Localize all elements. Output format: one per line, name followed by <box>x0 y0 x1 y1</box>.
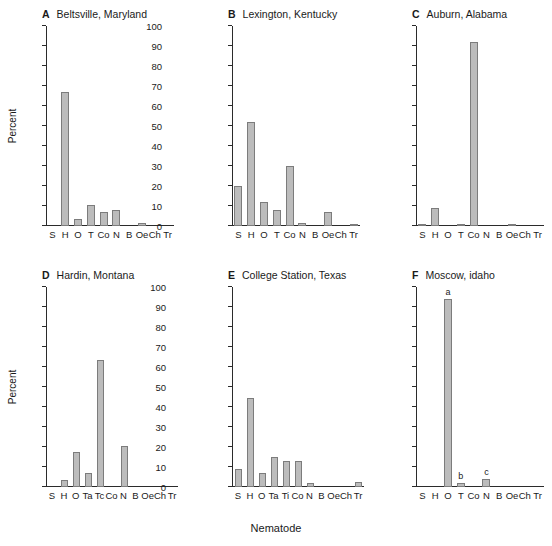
panel-c-letter: C <box>412 8 420 20</box>
x-axis-tick-label: S <box>232 229 245 240</box>
x-axis-tick-label: N <box>480 490 493 501</box>
panel-b-bars <box>232 26 360 226</box>
x-axis-tick-label: Tr <box>161 229 174 240</box>
bar-slot <box>493 26 506 226</box>
panel-c-heading: CAuburn, Alabama <box>412 8 507 20</box>
bar <box>418 224 426 226</box>
x-axis-tick-label: T <box>454 490 467 501</box>
bar-slot <box>232 26 245 226</box>
bar <box>355 482 362 487</box>
bar-slot <box>493 287 506 487</box>
bar-slot <box>283 26 296 226</box>
panel-b: BLexington, Kentucky SHOTCoNBOeChTr <box>186 0 370 261</box>
bar-slot <box>46 287 58 487</box>
x-axis-tick-label: S <box>46 229 59 240</box>
x-axis-tick-label: Co <box>105 490 117 501</box>
x-axis-tick-label: H <box>59 229 72 240</box>
x-axis-tick-label: Co <box>467 490 480 501</box>
x-axis-tick-label: Oe <box>506 229 519 240</box>
bar-slot <box>161 26 174 226</box>
bar-slot <box>118 287 130 487</box>
x-axis-tick-label: H <box>244 490 256 501</box>
x-axis-title: Nematode <box>0 522 552 534</box>
bar <box>138 223 146 226</box>
bar <box>234 186 242 226</box>
x-axis-tick-label: O <box>442 490 455 501</box>
x-axis-tick-label: S <box>416 229 429 240</box>
panel-c-bars <box>416 26 544 226</box>
bar <box>61 480 68 487</box>
bar-slot <box>304 287 316 487</box>
bar <box>247 398 254 487</box>
x-axis-tick-label: Ch <box>154 490 166 501</box>
bar-slot <box>123 26 136 226</box>
bar-slot <box>328 287 340 487</box>
x-axis-tick-label: S <box>416 490 429 501</box>
bar-slot <box>467 287 480 487</box>
x-axis-tick-label: B <box>129 490 141 501</box>
x-axis-tick-label: Ch <box>518 490 531 501</box>
bar-slot <box>352 287 364 487</box>
bar-annotation: c <box>484 467 489 477</box>
panel-e: ECollege Station, Texas SHOTaTiCoNBOeChT… <box>186 261 370 522</box>
panel-d: DHardin, Montana Percent 010203040506070… <box>0 261 186 522</box>
bar <box>97 360 104 487</box>
bar-annotation: a <box>445 287 450 297</box>
x-axis-tick-label: Tr <box>166 490 178 501</box>
bar-slot <box>531 287 544 487</box>
x-axis-tick-label: S <box>46 490 58 501</box>
bar-slot <box>416 287 429 487</box>
bar-slot <box>136 26 149 226</box>
bar-slot <box>232 287 244 487</box>
x-axis-tick-label: Ch <box>334 229 347 240</box>
x-axis-tick-label: N <box>304 490 316 501</box>
x-axis-tick-label: Tr <box>531 490 544 501</box>
panel-e-bars <box>232 287 364 487</box>
panel-b-letter: B <box>228 8 236 20</box>
bar <box>324 212 332 226</box>
panel-a-plot: 0102030405060708090100 SHOTCoNBOeChTr <box>46 26 174 226</box>
bar-slot <box>506 287 519 487</box>
bar <box>457 224 465 226</box>
bar-slot <box>154 287 166 487</box>
x-axis-tick-label: N <box>110 229 123 240</box>
panel-a-title: Beltsville, Maryland <box>57 8 147 20</box>
bar-slot <box>340 287 352 487</box>
x-axis-tick-label: Ti <box>280 490 292 501</box>
x-axis-tick-label: Tr <box>347 229 360 240</box>
x-axis-tick-label: Oe <box>322 229 335 240</box>
x-axis-tick-label: N <box>296 229 309 240</box>
bar-slot <box>97 26 110 226</box>
x-axis-tick-label: Tr <box>352 490 364 501</box>
bar <box>87 205 95 226</box>
bar-slot: c <box>480 287 493 487</box>
x-axis-tick-label: O <box>258 229 271 240</box>
bar <box>260 202 268 226</box>
bar-slot <box>72 26 85 226</box>
bar-slot <box>518 287 531 487</box>
bar-slot <box>82 287 94 487</box>
bar <box>457 483 465 487</box>
panel-d-plot: 0102030405060708090100 SHOTaTcCoNBOeChTr <box>46 287 178 487</box>
panel-f-title: Moscow, idaho <box>425 269 494 281</box>
panel-e-plot: SHOTaTiCoNBOeChTr <box>232 287 364 487</box>
bar <box>470 42 478 226</box>
panel-f: FMoscow, idaho abc SHOTCoNBOeChTr <box>370 261 552 522</box>
bar <box>298 223 306 226</box>
bar-slot <box>58 287 70 487</box>
x-axis-tick-label: Ch <box>148 229 161 240</box>
x-axis-tick-label: T <box>84 229 97 240</box>
x-axis-tick-label: H <box>429 490 442 501</box>
bar-slot <box>256 287 268 487</box>
x-axis-tick-label: O <box>442 229 455 240</box>
x-axis-tick-label: T <box>270 229 283 240</box>
bar <box>431 208 439 226</box>
bar-slot <box>245 26 258 226</box>
panel-a: ABeltsville, Maryland Percent 0102030405… <box>0 0 186 261</box>
bar <box>100 212 108 226</box>
panel-a-bars <box>46 26 174 226</box>
panel-e-xlabels: SHOTaTiCoNBOeChTr <box>232 490 364 501</box>
x-axis-tick-label: Oe <box>506 490 519 501</box>
bar-slot <box>518 26 531 226</box>
x-axis-tick-label: N <box>480 229 493 240</box>
